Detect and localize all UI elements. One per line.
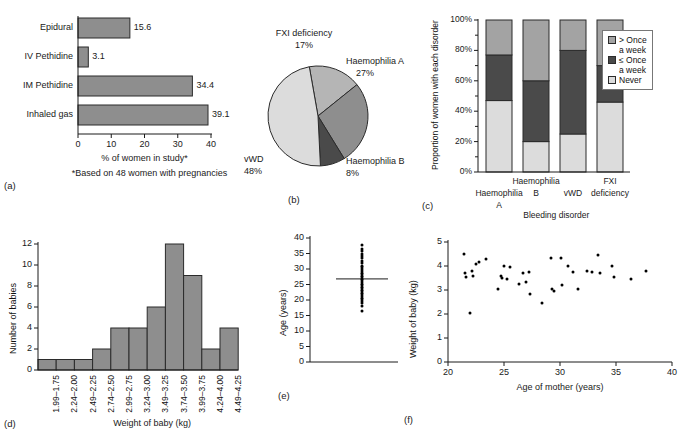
data-point xyxy=(572,271,575,274)
data-point xyxy=(597,254,600,257)
stack-segment xyxy=(597,102,623,172)
panel-e-dot-plot: 0510152025303540Age (years)(e) xyxy=(270,224,400,440)
stack-segment xyxy=(486,20,512,55)
panel-d-histogram: 024681012Number of babies1.75–1.992.00–2… xyxy=(0,224,250,440)
stack-segment xyxy=(560,50,586,134)
y-tick-label: 20 xyxy=(294,294,304,304)
stack-segment xyxy=(523,142,549,172)
y-tick-label: 35 xyxy=(294,248,304,258)
x-axis-title: Age of mother (years) xyxy=(516,382,603,392)
bar-category-label: Inhaled gas xyxy=(26,109,73,119)
bar-iv-pethidine xyxy=(78,47,88,67)
panel-caption-a: (a) xyxy=(4,180,16,191)
x-tick-label: 40 xyxy=(206,139,216,149)
data-point xyxy=(470,269,473,272)
stack-segment xyxy=(560,134,586,172)
x-tick-label: 40 xyxy=(667,367,677,377)
stack-segment xyxy=(523,20,549,81)
y-tick-label: 3 xyxy=(437,284,442,294)
histogram-bar xyxy=(111,328,129,370)
data-point xyxy=(610,265,613,268)
data-point xyxy=(497,287,500,290)
pie-label-fxi: FXI deficiency xyxy=(276,28,333,38)
y-tick-label: 5 xyxy=(299,341,304,351)
legend-entry: > Once xyxy=(608,35,647,45)
data-point xyxy=(599,272,602,275)
data-point xyxy=(550,256,553,259)
y-tick-label: 40 xyxy=(294,232,304,242)
y-tick-label: 80% xyxy=(455,44,472,54)
x-tick-label: 35 xyxy=(611,367,621,377)
data-point xyxy=(361,244,364,247)
x-axis-title: Weight of baby (kg) xyxy=(113,418,191,428)
x-tick-label: 10 xyxy=(106,139,116,149)
y-tick-label: 2 xyxy=(437,308,442,318)
x-category-label: A xyxy=(496,200,502,210)
data-point xyxy=(629,278,632,281)
legend-swatch-icon xyxy=(608,56,616,64)
data-point xyxy=(553,290,556,293)
bar-category-label: Epidural xyxy=(40,22,73,32)
histogram-bar xyxy=(129,328,147,370)
data-point xyxy=(462,253,465,256)
pie-value-fxi: 17% xyxy=(295,40,313,50)
data-point xyxy=(645,269,648,272)
bar-im-pethidine xyxy=(78,76,192,96)
data-point xyxy=(508,266,511,269)
legend-label-cont: a week xyxy=(608,45,647,55)
data-point xyxy=(528,292,531,295)
y-tick-label: 4 xyxy=(27,322,32,332)
y-tick-label: 4 xyxy=(437,260,442,270)
x-category-label: Haemophilia xyxy=(475,188,522,198)
data-point xyxy=(500,277,503,280)
panel-c-stacked-bar-chart: 0%20%40%60%80%100%Proportion of women wi… xyxy=(420,4,681,216)
panel-b-canvas xyxy=(228,8,428,213)
panel-a-bar-chart: Epidural15.6IV Pethidine3.1IM Pethidine3… xyxy=(0,0,230,205)
data-point xyxy=(576,287,579,290)
pie-value-haem-a: 27% xyxy=(356,68,374,78)
y-tick-label: 1 xyxy=(437,332,442,342)
panel-caption-e: (e) xyxy=(278,390,290,401)
y-tick-label: 10 xyxy=(22,259,32,269)
x-tick-label: 0 xyxy=(75,139,80,149)
y-tick-label: 10 xyxy=(294,325,304,335)
data-point xyxy=(469,311,472,314)
bar-value-label: 34.4 xyxy=(196,80,214,90)
y-tick-label: 0% xyxy=(460,166,472,176)
y-tick-label: 5 xyxy=(437,236,442,246)
histogram-bar xyxy=(56,360,74,371)
pie-label-haem-a: Haemophilia A xyxy=(346,56,404,66)
bar-inhaled-gas xyxy=(78,105,208,125)
legend-entry: ≤ Once xyxy=(608,55,647,65)
data-point xyxy=(478,261,481,264)
data-point xyxy=(522,272,525,275)
histogram-bar xyxy=(147,307,165,370)
stack-segment xyxy=(560,20,586,50)
histogram-bar xyxy=(93,349,111,370)
data-point xyxy=(506,278,509,281)
panel-e-canvas xyxy=(270,224,400,440)
legend: > Oncea week≤ Oncea weekNever xyxy=(602,30,653,90)
panel-b-pie-chart: FXI deficiency17%Haemophilia A27%Haemoph… xyxy=(228,8,428,213)
data-point xyxy=(585,269,588,272)
legend-label: ≤ Once xyxy=(619,55,646,65)
histogram-bar xyxy=(202,349,220,370)
x-category-label: FXI xyxy=(603,176,616,186)
data-point xyxy=(560,256,563,259)
x-tick-label: 25 xyxy=(499,367,509,377)
x-category-label: B xyxy=(533,188,539,198)
x-tick-label: 20 xyxy=(443,367,453,377)
stack-segment xyxy=(486,101,512,172)
bar-epidural xyxy=(78,18,130,38)
data-point xyxy=(517,283,520,286)
y-tick-label: 0 xyxy=(27,364,32,374)
y-tick-label: 12 xyxy=(22,238,32,248)
data-point xyxy=(503,265,506,268)
y-tick-label: 20% xyxy=(455,136,472,146)
panel-footnote: *Based on 48 women with pregnancies xyxy=(72,168,228,178)
legend-label: Never xyxy=(619,75,642,85)
panel-caption-f: (f) xyxy=(404,414,413,425)
x-category-label: vWD xyxy=(564,188,582,198)
data-point xyxy=(561,284,564,287)
y-tick-label: 25 xyxy=(294,279,304,289)
